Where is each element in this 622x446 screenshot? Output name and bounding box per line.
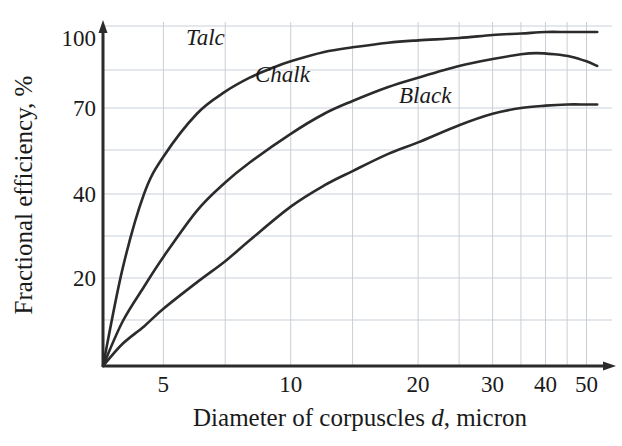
x-tick-label: 50: [575, 372, 598, 397]
x-tick-label: 5: [158, 372, 170, 397]
x-axis-title-pre: Diameter of corpuscles: [193, 404, 431, 431]
x-axis-title: Diameter of corpuscles d, micron: [193, 404, 527, 431]
x-tick-label: 20: [407, 372, 430, 397]
series-label-black: Black: [399, 83, 452, 108]
x-axis-title-variable: d: [431, 404, 444, 431]
y-tick-label: 20: [73, 266, 96, 291]
y-axis-title: Fractional efficiency, %: [10, 76, 37, 315]
x-tick-label: 40: [534, 372, 557, 397]
y-tick-label: 40: [73, 182, 96, 207]
chart-background: [0, 0, 622, 446]
x-axis-title-post: , micron: [444, 404, 528, 431]
series-label-talc: Talc: [186, 25, 225, 50]
x-tick-label: 10: [279, 372, 302, 397]
fractional-efficiency-chart: 51020304050 204070100 TalcChalkBlack Dia…: [0, 0, 622, 446]
series-label-chalk: Chalk: [255, 62, 311, 87]
chart-figure: 51020304050 204070100 TalcChalkBlack Dia…: [0, 0, 622, 446]
y-tick-label: 100: [62, 26, 97, 51]
x-tick-label: 30: [481, 372, 504, 397]
y-tick-label: 70: [73, 96, 96, 121]
